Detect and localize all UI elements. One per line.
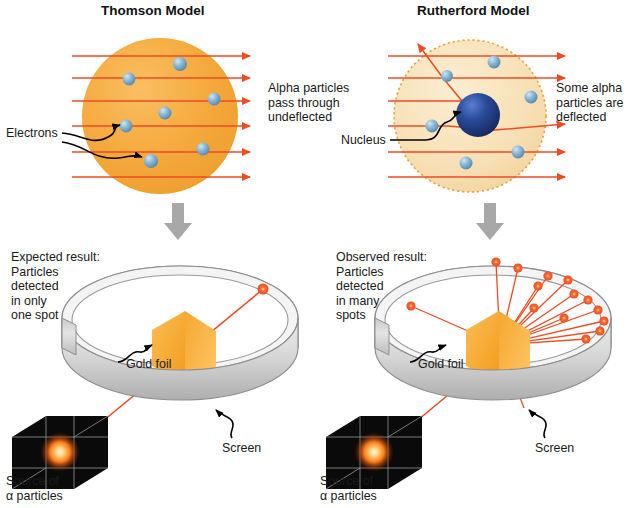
thomson-model-panel (62, 38, 250, 194)
detector-ring-gap-left-r (375, 318, 389, 355)
detection-spot (258, 284, 269, 295)
some-deflected-label: Some alpha particles are deflected (556, 81, 624, 125)
screen-leader-left (216, 410, 233, 438)
rutherford-nucleus (456, 93, 500, 137)
screen-label-right: Screen (535, 441, 574, 456)
gold-foil-label-left: Gold foil (126, 357, 171, 372)
electrons-label: Electrons (6, 126, 58, 141)
alpha-source-label-left: Source of α particles (6, 474, 63, 503)
thomson-model-title: Thomson Model (101, 3, 205, 18)
rutherford-model-panel (388, 40, 565, 192)
screen-label-left: Screen (222, 441, 261, 456)
expected-result-label: Expected result: Particles detected in o… (11, 250, 100, 323)
detector-ring-gap-left (62, 318, 76, 355)
transition-arrow-left (164, 203, 192, 240)
rutherford-model-title: Rutherford Model (417, 3, 530, 18)
alpha-pass-through-label: Alpha particles pass through undeflected (268, 81, 349, 125)
gold-foil-label-right: Gold foil (418, 357, 463, 372)
observed-result-label: Observed result: Particles detected in m… (336, 250, 427, 323)
nucleus-label: Nucleus (341, 133, 386, 148)
figure-root: Thomson Model Rutherford Model Alpha par… (0, 0, 633, 508)
alpha-source-label-right: Source of α particles (320, 474, 377, 503)
screen-leader-right (529, 410, 546, 438)
transition-arrow-right (476, 203, 504, 240)
